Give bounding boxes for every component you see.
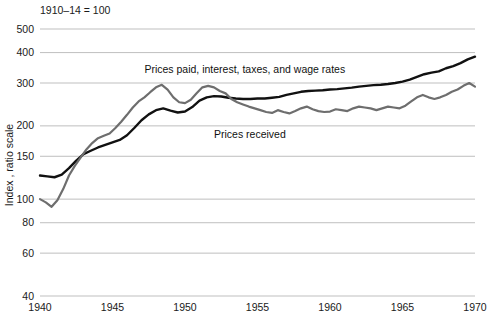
y-tick-label-60: 60 (22, 247, 34, 259)
x-tick-label-1940: 1940 (28, 301, 52, 313)
y-tick-labels-group: 406080100150200300400500 (16, 23, 34, 302)
y-tick-label-200: 200 (16, 119, 34, 131)
unit-note: 1910–14 = 100 (40, 4, 111, 16)
chart-container: 406080100150200300400500 194019451950195… (0, 0, 488, 315)
series-labels-group: Prices paid, interest, taxes, and wage r… (144, 63, 345, 140)
x-tick-label-1945: 1945 (101, 301, 125, 313)
series-label-prices-received: Prices received (214, 128, 286, 140)
y-tick-label-40: 40 (22, 290, 34, 302)
x-tick-label-1965: 1965 (391, 301, 415, 313)
y-tick-label-400: 400 (16, 46, 34, 58)
x-tick-label-1970: 1970 (463, 301, 487, 313)
x-tick-label-1960: 1960 (318, 301, 342, 313)
y-tick-label-150: 150 (16, 150, 34, 162)
y-tick-label-100: 100 (16, 193, 34, 205)
x-tick-label-1950: 1950 (173, 301, 197, 313)
x-tick-label-1955: 1955 (246, 301, 270, 313)
farm-price-index-line-chart: 406080100150200300400500 194019451950195… (0, 0, 488, 315)
y-axis-title: Index , ratio scale (3, 124, 15, 206)
series-label-prices-paid: Prices paid, interest, taxes, and wage r… (144, 63, 345, 75)
y-tick-label-300: 300 (16, 77, 34, 89)
y-tick-label-80: 80 (22, 216, 34, 228)
y-tick-label-500: 500 (16, 23, 34, 35)
x-tick-labels-group: 1940194519501955196019651970 (28, 301, 487, 313)
